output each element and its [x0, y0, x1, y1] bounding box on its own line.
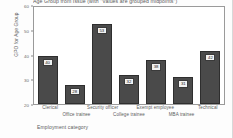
- bar-group: 42: [200, 7, 220, 104]
- bar[interactable]: 40: [38, 56, 58, 105]
- chart-title: Age Group from Issue (with "Values are g…: [33, 0, 231, 4]
- bar[interactable]: 28: [65, 85, 85, 104]
- bar[interactable]: 53: [92, 24, 112, 104]
- bar-value-label: 32: [124, 78, 134, 85]
- y-tick-label: 20: [3, 103, 29, 108]
- bar-value-label: 38: [151, 63, 161, 70]
- bar[interactable]: 32: [119, 75, 139, 104]
- x-tick-label: Exempt employee: [137, 105, 175, 110]
- x-tick-label: College trainee: [113, 112, 145, 117]
- x-tick-label: MBA trainee: [169, 112, 195, 117]
- bar-group: 40: [38, 7, 58, 104]
- bar-value-label: 42: [205, 54, 215, 61]
- x-tick-label: Security officer: [87, 105, 118, 110]
- y-axis: 60 50 40 30 20 GPO for Age Group: [0, 6, 33, 105]
- bar-group: 28: [65, 7, 85, 104]
- bar-group: 32: [119, 7, 139, 104]
- bar-series: 40285332383142: [34, 7, 224, 104]
- bar-group: 38: [146, 7, 166, 104]
- x-tick-label: Technical: [198, 105, 218, 110]
- x-tick-label: Office trainee: [62, 112, 90, 117]
- x-tick-label: Clerical: [42, 105, 58, 110]
- bar-group: 53: [92, 7, 112, 104]
- bar-value-label: 40: [43, 59, 53, 66]
- bar-group: 31: [173, 7, 193, 104]
- bar-value-label: 53: [97, 27, 107, 34]
- y-axis-title: GPO for Age Group: [14, 0, 19, 81]
- x-axis-title: Employment category: [33, 124, 229, 130]
- bar-value-label: 28: [70, 88, 80, 95]
- bar[interactable]: 31: [173, 77, 193, 104]
- bar-value-label: 31: [178, 80, 188, 87]
- bar[interactable]: 42: [200, 51, 220, 104]
- x-axis-tick-labels: ClericalOffice traineeSecurity officerCo…: [33, 105, 225, 120]
- chart-figure: Age Group from Issue (with "Values are g…: [0, 0, 233, 138]
- bar[interactable]: 38: [146, 60, 166, 104]
